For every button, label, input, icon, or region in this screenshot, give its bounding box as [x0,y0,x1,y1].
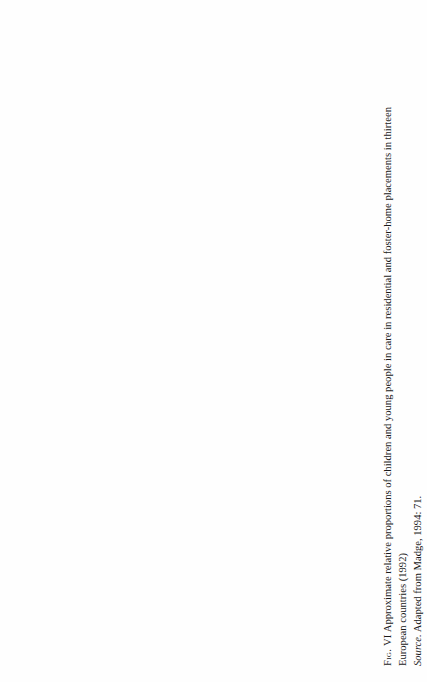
figure-number: Fig. VI [382,634,393,666]
caption-text-main: Approximate relative proportions of chil… [382,107,393,632]
source-text: Adapted from Madge, 1994: 71. [413,496,424,635]
caption-wrapper: Fig. VI Approximate relative proportions… [383,36,423,676]
caption-source-line: Source. Adapted from Madge, 1994: 71. [411,46,426,666]
figure-caption: Fig. VI Approximate relative proportions… [380,46,425,666]
figure-page: 0102030405060708090 PortugalSpainGreeceI… [0,0,427,682]
source-prefix: Source. [413,634,424,666]
caption-line-2: European countries (1992) [395,46,410,666]
caption-line-1: Fig. VI Approximate relative proportions… [380,46,395,666]
